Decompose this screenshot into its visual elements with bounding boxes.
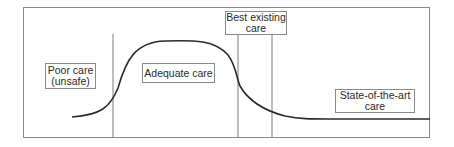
state-of-the-art-label: State-of-the-art care [335, 89, 415, 113]
best-existing-line-2: care [246, 23, 266, 34]
state-of-the-art-line-2: care [365, 101, 385, 112]
best-existing-care-label: Best existing care [225, 11, 287, 35]
poor-care-line-2: (unsafe) [51, 76, 90, 87]
care-quality-diagram: Poor care (unsafe) Adequate care Best ex… [0, 0, 454, 147]
adequate-care-label: Adequate care [142, 63, 215, 83]
poor-care-label: Poor care (unsafe) [45, 63, 96, 89]
adequate-care-text: Adequate care [144, 68, 212, 79]
